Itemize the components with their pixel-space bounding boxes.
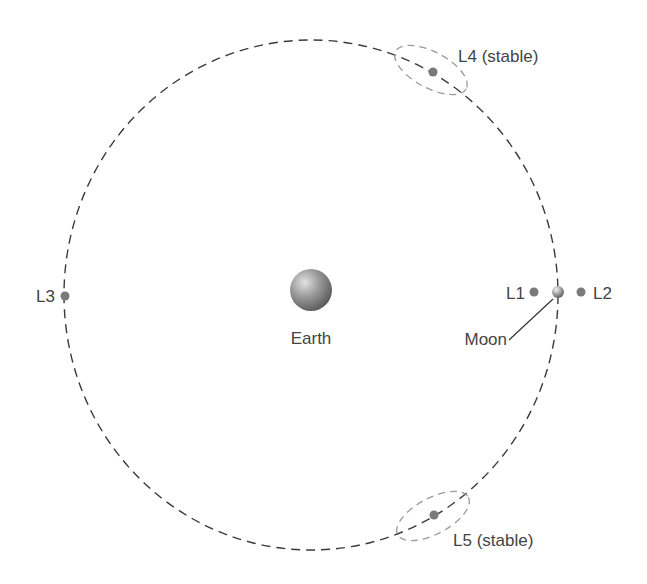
l3-point-icon	[61, 292, 70, 301]
l2-label: L2	[593, 284, 612, 303]
l4-point-icon	[429, 68, 438, 77]
lagrange-diagram: Earth Moon L1 L2 L3 L4 (stable) L5 (stab…	[0, 0, 647, 584]
l3-label: L3	[36, 287, 55, 306]
earth-label: Earth	[291, 329, 332, 348]
l5-point-icon	[430, 511, 439, 520]
l2-point-icon	[577, 288, 586, 297]
earth-icon	[290, 269, 332, 311]
l1-label: L1	[506, 284, 525, 303]
moon-icon	[552, 286, 564, 298]
moon-label: Moon	[464, 330, 507, 349]
l5-label: L5 (stable)	[453, 531, 533, 550]
l4-label: L4 (stable)	[458, 47, 538, 66]
l1-point-icon	[530, 288, 539, 297]
moon-leader-line	[509, 299, 553, 340]
